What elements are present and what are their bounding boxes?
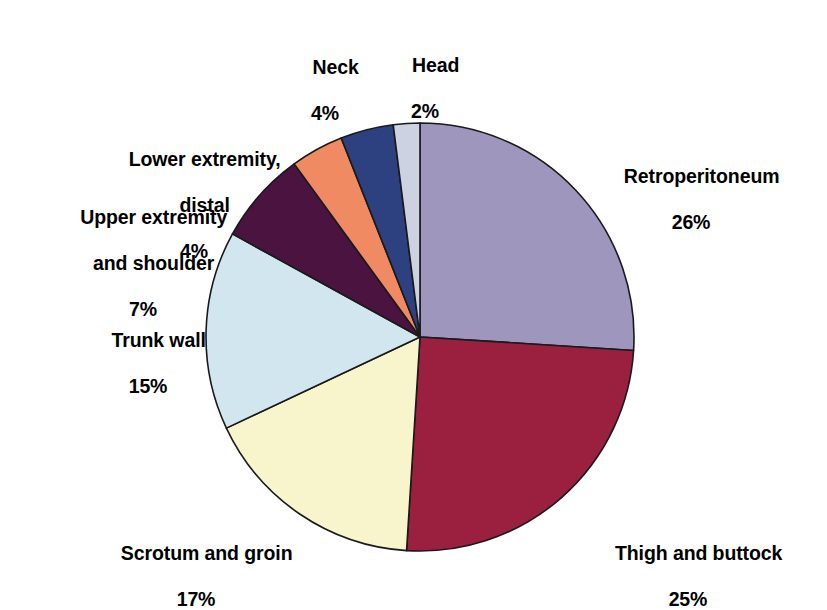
slice-label-neck-pct: 4% (291, 102, 359, 125)
slice-label-head: Head 2% (391, 31, 460, 169)
slice-label-head-pct: 2% (391, 100, 460, 123)
slice-label-neck: Neck 4% (291, 33, 359, 171)
slice-label-scrotum-and-groin: Scrotum and groin 17% (100, 519, 293, 610)
slice-label-lower-extremity-pct: 4% (107, 240, 280, 263)
slice-label-thigh-and-buttock: Thigh and buttock 25% (594, 519, 783, 610)
slice-label-lower-extremity-line1: Lower extremity, (129, 148, 281, 170)
slice-label-lower-extremity-distal: Lower extremity, distal 4% (107, 125, 280, 309)
slice-label-lower-extremity-line2: distal (179, 194, 229, 216)
slice-label-head-name: Head (412, 54, 459, 76)
slice-label-retroperitoneum-pct: 26% (603, 211, 780, 234)
slice-label-retroperitoneum-name: Retroperitoneum (624, 165, 780, 187)
slice-label-thigh-and-buttock-pct: 25% (594, 588, 783, 610)
slice-label-retroperitoneum: Retroperitoneum 26% (603, 142, 780, 280)
slice-label-trunk-wall-pct: 15% (90, 375, 206, 398)
slice-label-scrotum-and-groin-pct: 17% (100, 588, 293, 610)
slice-label-scrotum-and-groin-name: Scrotum and groin (121, 542, 293, 564)
slice-label-neck-name: Neck (313, 56, 359, 78)
slice-label-thigh-and-buttock-name: Thigh and buttock (615, 542, 782, 564)
